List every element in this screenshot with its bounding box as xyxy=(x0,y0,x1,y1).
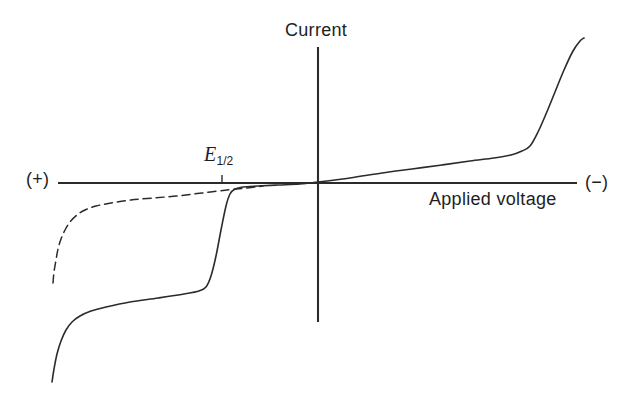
voltammogram-figure: Current Applied voltage (+) (−) E1/2 xyxy=(0,0,639,395)
half-wave-potential-label: E1/2 xyxy=(204,144,233,172)
half-wave-subscript: 1/2 xyxy=(217,154,234,168)
x-axis-label: Applied voltage xyxy=(429,189,557,210)
negative-polarity-label: (−) xyxy=(585,172,608,193)
half-wave-symbol: E xyxy=(204,143,217,165)
y-axis-label: Current xyxy=(285,20,347,41)
residual-current-curve xyxy=(53,186,263,283)
positive-polarity-label: (+) xyxy=(26,169,49,190)
